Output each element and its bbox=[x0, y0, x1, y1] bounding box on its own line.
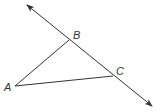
point-label-b: B bbox=[73, 29, 80, 41]
point-label-a: A bbox=[3, 81, 11, 93]
line-bc-with-arrows bbox=[90, 56, 153, 107]
point-label-c: C bbox=[116, 65, 124, 77]
segment-ac bbox=[15, 76, 113, 86]
segment-ab bbox=[15, 40, 69, 86]
geometry-diagram: A B C bbox=[0, 0, 160, 112]
